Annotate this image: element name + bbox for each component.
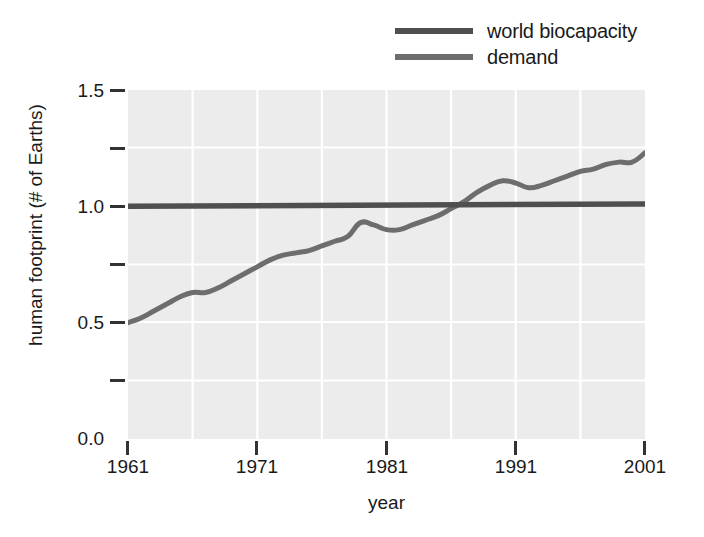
legend-item-world-biocapacity: world biocapacity (395, 18, 695, 44)
y-tick-label-1-5: 1.5 (56, 81, 104, 100)
y-tick-label-0-0: 0.0 (56, 429, 104, 448)
chart-legend: world biocapacity demand (395, 18, 695, 70)
x-tick-mark-1991 (514, 441, 517, 455)
y-tick-label-0-5: 0.5 (56, 313, 104, 332)
x-tick-mark-2001 (643, 441, 646, 455)
legend-swatch-demand (395, 54, 473, 60)
x-tick-label-1991: 1991 (476, 457, 556, 476)
legend-label-world-biocapacity: world biocapacity (487, 21, 637, 41)
y-tick-mark-0-75 (110, 263, 125, 266)
series-line-world-biocapacity (128, 204, 645, 206)
x-tick-mark-1981 (385, 441, 388, 455)
y-tick-label-1-0: 1.0 (56, 197, 104, 216)
legend-item-demand: demand (395, 44, 695, 70)
x-axis-title: year (128, 492, 645, 514)
legend-swatch-world-biocapacity (395, 28, 473, 34)
legend-label-demand: demand (487, 47, 558, 67)
x-tick-mark-1961 (126, 441, 129, 455)
plot-area (128, 90, 645, 439)
grid-lines (128, 90, 645, 439)
y-axis-title: human footprint (# of Earths) (18, 5, 54, 445)
x-tick-label-1971: 1971 (217, 457, 297, 476)
y-tick-mark-1-25 (110, 147, 125, 150)
y-tick-mark-0-5 (110, 321, 125, 324)
x-tick-label-1961: 1961 (88, 457, 168, 476)
x-tick-mark-1971 (255, 441, 258, 455)
y-tick-mark-0-25 (110, 379, 125, 382)
x-tick-label-1981: 1981 (347, 457, 427, 476)
chart-figure: world biocapacity demand human footprint… (0, 0, 704, 537)
y-tick-mark-1-5 (110, 89, 125, 92)
x-tick-label-2001: 2001 (605, 457, 685, 476)
y-tick-mark-1-0 (110, 205, 125, 208)
